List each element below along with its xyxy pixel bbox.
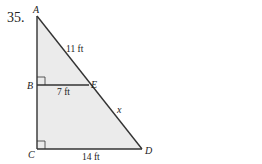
measure-BE: 7 ft (57, 87, 70, 97)
measure-AE: 11 ft (66, 44, 84, 54)
label-A: A (32, 4, 40, 15)
label-C: C (28, 149, 35, 160)
label-E: E (90, 79, 97, 90)
measure-ED: x (116, 104, 122, 115)
measure-CD: 14 ft (82, 152, 100, 162)
label-D: D (144, 145, 153, 156)
triangle-figure: A B C D E 11 ft 7 ft 14 ft x (0, 0, 262, 164)
label-B: B (27, 80, 33, 91)
